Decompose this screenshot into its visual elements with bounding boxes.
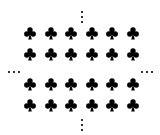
club-icon — [106, 27, 118, 40]
club-icon — [127, 27, 139, 40]
ellipsis-left — [8, 71, 23, 73]
club-icon — [127, 48, 139, 61]
club-icon — [24, 78, 36, 91]
club-icon — [45, 99, 57, 112]
club-icon — [45, 78, 57, 91]
club-icon — [86, 48, 98, 61]
club-icon — [86, 99, 98, 112]
club-icon — [24, 48, 36, 61]
ellipsis-bottom — [81, 119, 83, 134]
club-icon — [24, 99, 36, 112]
club-icon — [24, 27, 36, 40]
club-icon — [65, 27, 77, 40]
club-icon — [45, 48, 57, 61]
club-icon — [106, 78, 118, 91]
club-icon — [106, 48, 118, 61]
club-icon — [86, 78, 98, 91]
ellipsis-right — [141, 71, 156, 73]
club-icon — [127, 99, 139, 112]
club-icon — [127, 78, 139, 91]
club-icon — [106, 99, 118, 112]
club-icon — [65, 99, 77, 112]
ellipsis-top — [81, 11, 83, 26]
club-icon — [65, 48, 77, 61]
club-icon — [65, 78, 77, 91]
club-icon — [45, 27, 57, 40]
club-icon — [86, 27, 98, 40]
